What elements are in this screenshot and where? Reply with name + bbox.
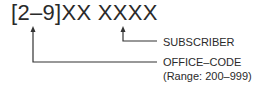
subscriber-arrow [123, 30, 157, 41]
office-code-arrow [33, 30, 157, 62]
office-code-arrowhead-icon [31, 26, 36, 32]
subscriber-arrowhead-icon [121, 26, 126, 32]
office-code-label: OFFICE–CODE [163, 56, 241, 69]
office-code-range-label: (Range: 200–999) [163, 70, 252, 83]
subscriber-label: SUBSCRIBER [163, 36, 235, 49]
